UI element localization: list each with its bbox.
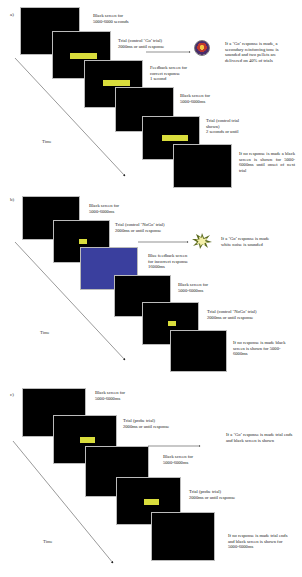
nogo-stimulus xyxy=(79,239,87,244)
caption-a3: Feedback screen forcorrect response1 sec… xyxy=(150,65,187,82)
caption-c2: Trial (probe trial)2000ms or until respo… xyxy=(123,418,169,429)
caption-c1: Black screen for5000-6000ms xyxy=(95,390,125,401)
caption-c3: Black screen for5000-6000ms xyxy=(163,454,193,465)
white-noise-burst-icon xyxy=(192,233,212,249)
caption-b4: Black screen for5000-6000ms xyxy=(178,282,208,293)
reinforcer-tone-icon xyxy=(194,40,210,56)
screen-black-3 xyxy=(151,512,215,561)
panel-label-a: a) xyxy=(10,12,14,17)
probe-stimulus xyxy=(80,437,95,443)
nogo-stimulus xyxy=(168,321,176,326)
outcome-a: If a ‘Go’ response is made, a secondary … xyxy=(225,41,287,63)
caption-b5: Trial (control ‘NoGo’ trial)2000ms or un… xyxy=(207,309,257,320)
caption-b2: Trial (control ‘NoGo’ trial)2000ms or un… xyxy=(115,222,165,233)
screen-black-3 xyxy=(170,330,227,372)
caption-a4: Black screen for5000-6000ms xyxy=(180,93,210,104)
probe-stimulus xyxy=(144,499,159,505)
caption-a6: If no response is made a black screen is… xyxy=(239,151,295,173)
go-stimulus xyxy=(70,53,97,59)
outcome-b: If a ‘Go’ response is madewhite noise is… xyxy=(221,236,269,247)
caption-c4: Trial (probe trial)2000ms or until respo… xyxy=(189,489,235,500)
time-label-c: Time xyxy=(43,539,53,544)
caption-c5: If no response is made trial ends and bl… xyxy=(228,533,294,550)
caption-a2: Trial (control ‘Go’ trial)2000ms or unti… xyxy=(118,38,164,49)
screen-black-3 xyxy=(173,144,232,188)
caption-b3: Blue feedback screenfor incorrect respon… xyxy=(148,253,188,270)
time-label-b: Time xyxy=(40,330,50,335)
caption-b1: Black screen for5000-6000ms xyxy=(89,203,119,214)
outcome-c: If a ‘Go’ response is made trial ends an… xyxy=(226,432,298,443)
time-label-a: Time xyxy=(42,139,52,144)
feedback-stimulus xyxy=(103,80,130,86)
control-stimulus xyxy=(162,135,188,141)
caption-a1: Black screen for5000-6000 seconds xyxy=(93,13,129,24)
panel-label-b: b) xyxy=(10,197,14,202)
panel-label-c: c) xyxy=(10,392,14,397)
caption-a5: Trial (control trialshown)2 seconds or u… xyxy=(206,118,239,135)
caption-b6: If no response is made black screen is s… xyxy=(233,340,293,357)
